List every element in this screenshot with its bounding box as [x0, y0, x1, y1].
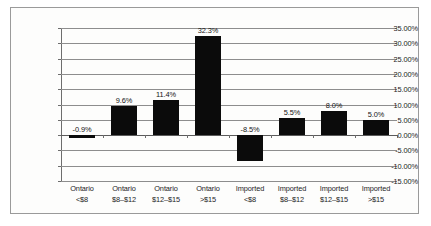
category-label: Imported$12–$15 [313, 184, 355, 205]
category-label-region: Ontario [187, 184, 229, 195]
x-tick-mark [103, 135, 104, 138]
x-tick-mark [271, 135, 272, 138]
bar-value-label: 8.0% [326, 101, 342, 110]
y-tick-label: 30.00% [372, 39, 418, 48]
category-label: Ontario>$15 [187, 184, 229, 205]
x-tick-mark [187, 135, 188, 138]
category-label-region: Ontario [103, 184, 145, 195]
bar[interactable] [69, 135, 95, 138]
y-tick-label: 20.00% [372, 69, 418, 78]
bar-slot: -8.5% [229, 28, 271, 181]
category-label: Ontario$12–$15 [145, 184, 187, 205]
x-tick-mark [355, 135, 356, 138]
category-label-price-range: $12–$15 [313, 195, 355, 206]
y-tick-label: 35.00% [372, 24, 418, 33]
plot-area: -0.9%9.6%11.4%32.3%-8.5%5.5%8.0%5.0% [61, 28, 397, 181]
category-label: Imported$8–$12 [271, 184, 313, 205]
bar[interactable] [153, 100, 179, 135]
y-tick-mark [58, 120, 61, 121]
y-tick-mark [58, 28, 61, 29]
y-tick-mark [58, 150, 61, 151]
category-label-price-range: <$8 [229, 195, 271, 206]
bar[interactable] [111, 106, 137, 135]
y-tick-mark [58, 89, 61, 90]
bar-slot: 8.0% [313, 28, 355, 181]
category-label-price-range: <$8 [61, 195, 103, 206]
category-label-region: Ontario [145, 184, 187, 195]
chart-figure: -0.9%9.6%11.4%32.3%-8.5%5.5%8.0%5.0% 35.… [10, 7, 419, 214]
x-tick-mark [313, 135, 314, 138]
bar-value-label: 32.3% [198, 26, 218, 35]
y-tick-mark [58, 59, 61, 60]
bar[interactable] [279, 118, 305, 135]
bar[interactable] [237, 135, 263, 161]
category-label: Imported>$15 [355, 184, 397, 205]
bar-value-label: 9.6% [116, 96, 132, 105]
bar-value-label: -8.5% [241, 125, 260, 134]
category-label-price-range: $8–$12 [103, 195, 145, 206]
category-label: Imported<$8 [229, 184, 271, 205]
y-tick-mark [58, 181, 61, 182]
bar-value-label: 11.4% [156, 90, 176, 99]
bar[interactable] [321, 111, 347, 135]
y-tick-label: 5.00% [372, 115, 418, 124]
category-label: Ontario<$8 [61, 184, 103, 205]
category-label-price-range: $12–$15 [145, 195, 187, 206]
gridline [61, 181, 397, 182]
y-tick-label: 0.00% [372, 131, 418, 140]
y-tick-mark [58, 166, 61, 167]
y-tick-label: -10.00% [372, 161, 418, 170]
bar[interactable] [195, 36, 221, 135]
category-label-region: Imported [313, 184, 355, 195]
bar-value-label: 5.5% [284, 108, 300, 117]
bar-slot: -0.9% [61, 28, 103, 181]
y-tick-label: 25.00% [372, 54, 418, 63]
bar-slot: 5.5% [271, 28, 313, 181]
category-label-region: Ontario [61, 184, 103, 195]
bar-slot: 32.3% [187, 28, 229, 181]
y-tick-mark [58, 74, 61, 75]
category-label-price-range: $8–$12 [271, 195, 313, 206]
y-tick-mark [58, 43, 61, 44]
category-label: Ontario$8–$12 [103, 184, 145, 205]
y-tick-mark [58, 135, 61, 136]
bar-slot: 11.4% [145, 28, 187, 181]
category-label-region: Imported [355, 184, 397, 195]
bar-slot: 9.6% [103, 28, 145, 181]
x-tick-mark [229, 135, 230, 138]
y-tick-label: 15.00% [372, 85, 418, 94]
y-tick-label: 10.00% [372, 100, 418, 109]
y-tick-mark [58, 105, 61, 106]
category-label-price-range: >$15 [355, 195, 397, 206]
category-label-region: Imported [229, 184, 271, 195]
y-tick-label: -5.00% [372, 146, 418, 155]
bar-value-label: -0.9% [73, 125, 92, 134]
category-label-region: Imported [271, 184, 313, 195]
x-axis-category-labels: Ontario<$8Ontario$8–$12Ontario$12–$15Ont… [61, 184, 397, 212]
category-label-price-range: >$15 [187, 195, 229, 206]
x-tick-mark [145, 135, 146, 138]
